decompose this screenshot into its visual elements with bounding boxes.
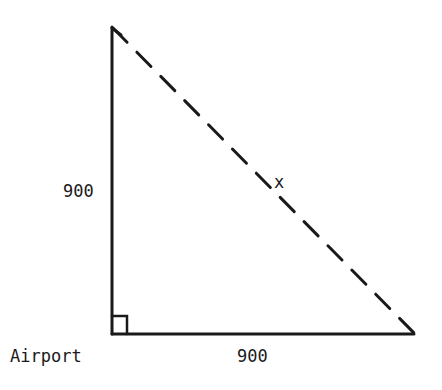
horizontal-side-label: 900	[237, 346, 268, 366]
triangle-diagram: 900 x Airport 900	[0, 0, 442, 390]
hypotenuse-dashed	[113, 28, 414, 333]
hypotenuse-label: x	[274, 172, 284, 192]
airport-label: Airport	[10, 346, 82, 366]
vertical-side-label: 900	[63, 181, 94, 201]
right-angle-marker	[112, 316, 127, 334]
